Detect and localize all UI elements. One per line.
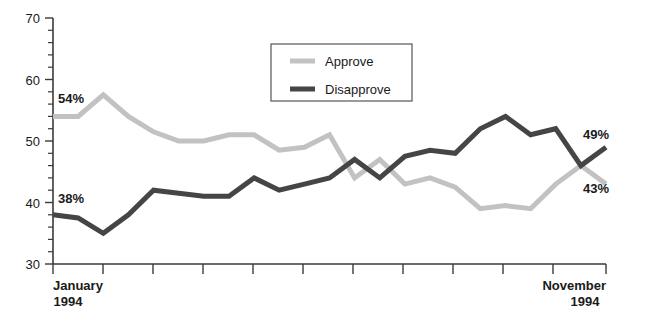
x-axis-ticks	[53, 264, 606, 274]
annotation-approve-end: 43%	[583, 181, 609, 196]
series-line-approve	[53, 95, 606, 209]
y-tick-label-60: 60	[26, 73, 40, 88]
legend-label-disapprove: Disapprove	[325, 82, 391, 97]
y-tick-label-40: 40	[26, 196, 40, 211]
y-tick-label-30: 30	[26, 257, 40, 272]
y-tick-label-70: 70	[26, 11, 40, 26]
x-axis-right-year: 1994	[571, 294, 601, 309]
chart-legend: Approve Disapprove	[271, 44, 412, 101]
line-chart: 70 60 50 40 30 54% 38% 49% 43%	[0, 0, 647, 313]
chart-container: 70 60 50 40 30 54% 38% 49% 43%	[0, 0, 647, 313]
legend-label-approve: Approve	[325, 54, 373, 69]
x-axis-right-month: November	[542, 278, 606, 293]
x-axis-left-month: January	[53, 278, 104, 293]
annotation-disapprove-start: 38%	[58, 191, 84, 206]
y-tick-label-50: 50	[26, 134, 40, 149]
annotation-disapprove-end: 49%	[583, 127, 609, 142]
x-axis-left-year: 1994	[54, 294, 84, 309]
annotation-approve-start: 54%	[58, 91, 84, 106]
